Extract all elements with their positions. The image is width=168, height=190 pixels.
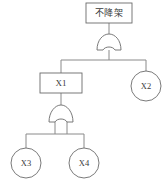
node-x1[interactable]: X1 xyxy=(40,73,82,93)
fault-tree-canvas: 不降架 X1 X2 X3 X4 xyxy=(0,0,168,190)
node-x2[interactable]: X2 xyxy=(131,71,161,101)
x2-label: X2 xyxy=(141,81,151,91)
x4-label: X4 xyxy=(79,158,90,168)
x1-label: X1 xyxy=(56,78,67,88)
node-top-event[interactable]: 不降架 xyxy=(86,3,132,23)
or-gate-lower-symbol xyxy=(49,105,73,122)
fault-tree-diagram: 不降架 X1 X2 X3 X4 xyxy=(0,0,168,190)
or-gate-top[interactable] xyxy=(97,34,121,50)
or-gate-lower[interactable] xyxy=(49,105,73,122)
or-gate-top-symbol xyxy=(97,34,121,50)
node-x3[interactable]: X3 xyxy=(11,148,41,178)
x3-label: X3 xyxy=(21,158,31,168)
top-event-label: 不降架 xyxy=(95,7,123,18)
node-x4[interactable]: X4 xyxy=(69,148,99,178)
